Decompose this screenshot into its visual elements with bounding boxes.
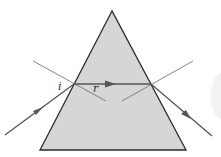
angle-i-label: i	[58, 80, 62, 93]
prism-refraction-diagram: i r	[0, 0, 221, 157]
diagram-svg: i r	[0, 0, 221, 157]
prism	[40, 11, 186, 150]
angle-r-label: r	[93, 82, 99, 95]
